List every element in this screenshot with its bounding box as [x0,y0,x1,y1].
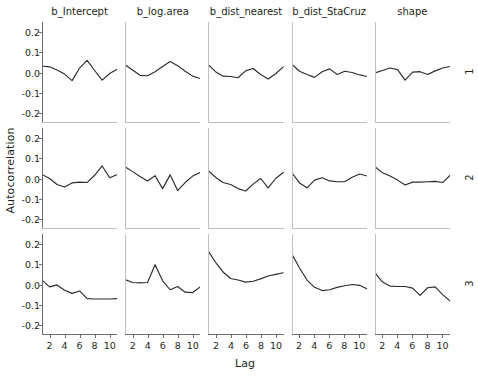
row-label-text: 2 [464,174,475,180]
panel-b-log-area-row-2 [125,128,200,229]
x-tick-mark [110,335,111,338]
x-tick-label: 6 [322,340,336,351]
panel-plot-area [375,234,450,335]
panel-shape-row-3 [375,234,450,335]
panel-left-spine [42,128,43,229]
panel-plot-area [125,128,200,229]
y-tick-label: -0.1 [14,87,40,98]
panel-left-spine [42,22,43,123]
acf-line [208,170,283,191]
x-tick-label: 8 [254,340,268,351]
panel-left-spine [125,22,126,123]
acf-line [42,280,117,299]
acf-line [125,62,200,79]
x-tick-label: 6 [405,340,419,351]
column-title-b-dist-stacruz: b_dist_StaCruz [292,6,367,17]
panel-b-dist-stacruz-row-1 [292,22,367,123]
panel-b-log-area-row-3 [125,234,200,335]
x-tick-mark [442,335,443,338]
panel-b-intercept-row-3 [42,234,117,335]
x-tick-mark [80,335,81,338]
x-tick-mark [231,335,232,338]
panel-left-spine [208,128,209,229]
panel-plot-area [375,128,450,229]
x-tick-label: 8 [171,340,185,351]
panel-plot-area [208,128,283,229]
y-tick-label: 0.2 [14,133,40,144]
x-tick-mark [216,335,217,338]
panel-bottom-spine [292,334,367,335]
panel-bottom-spine [208,228,283,229]
panel-left-spine [375,128,376,229]
x-tick-mark [148,335,149,338]
x-tick-label: 2 [43,340,57,351]
x-tick-mark [246,335,247,338]
column-title-b-dist-nearest: b_dist_nearest [208,6,283,17]
y-tick-label: 0.1 [14,153,40,164]
panel-bottom-spine [208,122,283,123]
x-tick-label: 10 [269,340,283,351]
x-tick-mark [276,335,277,338]
column-title-b-log-area: b_log.area [125,6,200,17]
x-tick-mark [50,335,51,338]
y-tick-label: 0.2 [14,27,40,38]
x-tick-mark [65,335,66,338]
x-tick-label: 6 [239,340,253,351]
acf-line [292,64,367,77]
row-label-text: 1 [464,68,475,74]
panel-bottom-spine [375,122,450,123]
x-tick-label: 10 [435,340,449,351]
panel-bottom-spine [42,122,117,123]
x-tick-mark [412,335,413,338]
x-tick-label: 10 [186,340,200,351]
panel-b-intercept-row-1 [42,22,117,123]
x-tick-label: 8 [88,340,102,351]
panel-plot-area [42,22,117,123]
panel-plot-area [292,128,367,229]
panel-bottom-spine [125,334,200,335]
y-tick-label: -0.1 [14,193,40,204]
x-tick-mark [397,335,398,338]
x-tick-label: 2 [126,340,140,351]
y-tick-label: -0.2 [14,319,40,330]
y-tick-label: 0.2 [14,239,40,250]
panel-bottom-spine [292,122,367,123]
y-tick-label: -0.1 [14,299,40,310]
x-tick-mark [314,335,315,338]
x-axis-title: Lag [40,357,450,370]
x-tick-label: 2 [375,340,389,351]
panel-b-log-area-row-1 [125,22,200,123]
panel-bottom-spine [292,228,367,229]
acf-line [292,254,367,290]
panel-left-spine [125,234,126,335]
y-tick-label: 0.1 [14,47,40,58]
acf-line [125,265,200,293]
panel-left-spine [292,234,293,335]
acf-line [125,167,200,191]
panel-plot-area [42,234,117,335]
panel-b-dist-stacruz-row-2 [292,128,367,229]
panel-left-spine [375,22,376,123]
panel-shape-row-2 [375,128,450,229]
panel-left-spine [125,128,126,229]
panel-shape-row-1 [375,22,450,123]
panel-bottom-spine [375,228,450,229]
panel-grid [42,22,450,335]
x-tick-mark [427,335,428,338]
x-tick-label: 2 [292,340,306,351]
panel-plot-area [292,234,367,335]
panel-left-spine [208,234,209,335]
x-tick-mark [344,335,345,338]
x-tick-label: 8 [337,340,351,351]
x-tick-label: 4 [224,340,238,351]
acf-line [208,251,283,283]
x-tick-label: 6 [73,340,87,351]
acf-line [375,66,450,80]
panel-left-spine [292,128,293,229]
panel-plot-area [125,22,200,123]
panel-b-dist-nearest-row-3 [208,234,283,335]
x-tick-mark [193,335,194,338]
acf-line [42,60,117,80]
panel-bottom-spine [125,228,200,229]
y-tick-label: 0.0 [14,279,40,290]
